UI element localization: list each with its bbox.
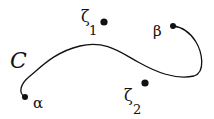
zeta1-subscript: 1 [89,23,97,38]
contour-curve-c [21,26,202,97]
zeta2-label: ζ [124,86,133,105]
alpha-label: α [33,94,43,112]
zeta1-point [100,18,107,25]
beta-point [170,23,176,29]
contour-diagram: C α β ζ 1 ζ 2 [0,0,214,119]
curve-label-c: C [10,48,27,73]
zeta2-point [141,79,148,86]
alpha-point [22,94,28,100]
zeta2-subscript: 2 [133,102,141,117]
beta-label: β [153,22,162,40]
